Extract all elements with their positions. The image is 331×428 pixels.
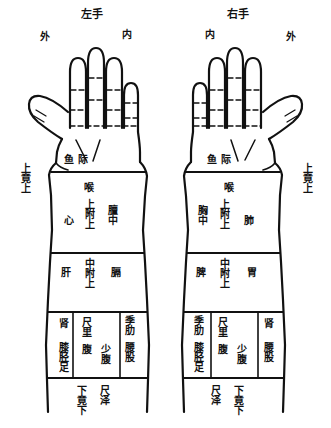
left-zone-lower-left-bottom: 膝胫足 — [57, 342, 67, 372]
left-zone-upper-center: 上附上 — [83, 199, 93, 229]
right-chize-label: 尺泽 — [209, 385, 219, 405]
right-zone-lower-left-top: 季肋 — [192, 315, 202, 335]
left-zone-lower-center-mid: 腹 — [80, 344, 90, 354]
left-forearm-outline — [46, 162, 149, 412]
left-zone-upper-right: 膻中 — [106, 205, 116, 225]
left-chize-label: 尺泽 — [98, 385, 108, 405]
left-hand-outline — [29, 48, 140, 170]
right-throat-label: 喉 — [224, 183, 234, 194]
left-zone-middle-center: 中附上 — [83, 258, 93, 288]
left-zone-upper-left: 心 — [62, 215, 72, 225]
right-hand-outer-label: 外 — [286, 32, 296, 43]
left-lower-limit-label: 下竟下 — [75, 385, 85, 415]
right-zone-lower-right-top: 肾 — [262, 318, 272, 328]
left-zone-lower-right-bottom: 腰股 — [123, 342, 133, 362]
left-zone-lower-left-top: 肾 — [57, 318, 67, 328]
left-hand-outer-label: 外 — [40, 32, 50, 43]
left-zone-middle-right: 膈 — [109, 267, 119, 277]
left-zone-lower-center-top: 尺里 — [80, 317, 90, 337]
left-zone-lower-center-bottom: 少腹 — [99, 344, 109, 364]
right-forearm-outline — [182, 162, 285, 412]
right-hand-inner-label: 内 — [205, 30, 215, 41]
left-upper-limit-label: 上竟上 — [19, 163, 29, 193]
right-zone-middle-left: 脾 — [194, 267, 204, 277]
diagram-canvas: 左手 外 内 鱼际 上竟上 喉 心 上附上 膻中 肝 中附上 膈 肾 膝胫足 尺… — [0, 0, 331, 428]
right-zone-upper-center: 上附上 — [218, 199, 228, 229]
right-zone-lower-left-bottom: 膝胫足 — [192, 342, 202, 372]
right-hand-outline — [191, 48, 302, 170]
right-zone-middle-right: 胃 — [245, 267, 255, 277]
left-hand-title: 左手 — [81, 10, 103, 21]
right-zone-lower-right-bottom: 腰股 — [262, 342, 272, 362]
left-thenar-label: 鱼际 — [64, 155, 92, 166]
anatomy-line-art — [0, 0, 331, 428]
left-throat-label: 喉 — [84, 183, 94, 194]
left-hand-inner-label: 内 — [122, 30, 132, 41]
right-thenar-label: 鱼际 — [207, 155, 235, 166]
right-zone-lower-center-mid: 腹 — [216, 344, 226, 354]
left-zone-lower-right-top: 季肋 — [123, 315, 133, 335]
right-lower-limit-label: 下竟下 — [232, 385, 242, 415]
left-zone-middle-left: 肝 — [59, 267, 69, 277]
right-zone-upper-left: 胸中 — [196, 205, 206, 225]
right-zone-upper-right: 肺 — [242, 215, 252, 225]
right-upper-limit-label: 上竟上 — [301, 163, 311, 193]
right-zone-lower-center-top: 尺里 — [216, 317, 226, 337]
right-zone-lower-center-bottom: 少腹 — [235, 344, 245, 364]
right-hand-title: 右手 — [227, 10, 249, 21]
right-zone-middle-center: 中附上 — [218, 258, 228, 288]
